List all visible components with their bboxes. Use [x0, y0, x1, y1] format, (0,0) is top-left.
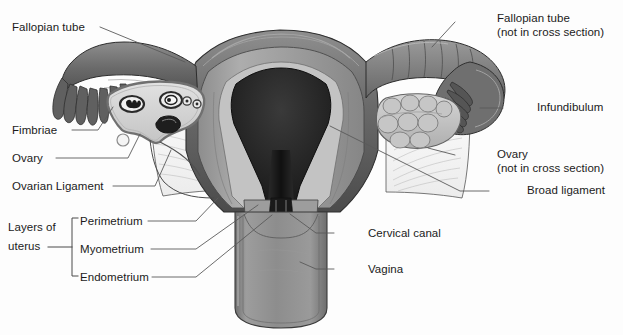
released-ovum	[117, 134, 129, 146]
leader-perimetrium	[148, 198, 218, 221]
label-ovarian-ligament: Ovarian Ligament	[12, 180, 104, 194]
label-ovary-not-cross: Ovary	[497, 148, 528, 162]
label-perimetrium: Perimetrium	[80, 215, 143, 229]
label-cervical-canal: Cervical canal	[368, 227, 441, 241]
label-vagina: Vagina	[368, 263, 403, 277]
label-fallopian-tube-not-cross: Fallopian tube	[497, 12, 570, 26]
label-layers-of-uterus-line1: Layers of	[8, 221, 56, 235]
corpus-luteum	[156, 116, 181, 133]
label-myometrium: Myometrium	[80, 243, 144, 257]
label-ovary-not-cross-sub: (not in cross section)	[497, 162, 604, 176]
label-broad-ligament: Broad ligament	[527, 184, 605, 198]
right-ovary-surface	[376, 94, 460, 149]
label-fallopian-tube: Fallopian tube	[12, 21, 85, 35]
label-layers-of-uterus-line2: uterus	[8, 240, 40, 254]
vagina	[235, 212, 327, 328]
label-fallopian-tube-not-cross-sub: (not in cross section)	[497, 26, 604, 40]
label-ovary: Ovary	[12, 152, 43, 166]
anatomy-figure: Fallopian tube Fimbriae Ovary Ovarian Li…	[0, 0, 623, 335]
label-infundibulum: Infundibulum	[537, 101, 603, 115]
label-endometrium: Endometrium	[80, 271, 149, 285]
label-fimbriae: Fimbriae	[12, 124, 57, 138]
